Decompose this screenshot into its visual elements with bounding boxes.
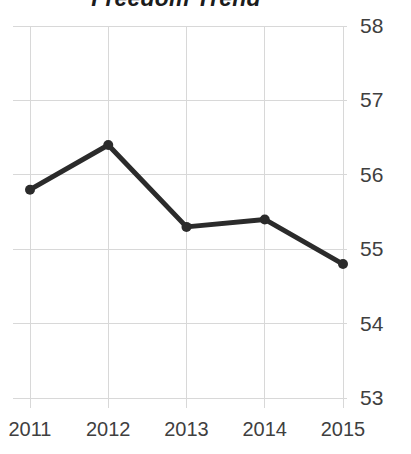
chart-series-freedom-trend — [13, 26, 347, 398]
plot-area — [13, 26, 347, 398]
x-tick-label: 2014 — [220, 418, 310, 440]
y-tick-label: 55 — [360, 238, 404, 259]
y-tick-label: 54 — [360, 313, 404, 334]
y-tick-label: 58 — [360, 15, 404, 36]
y-tick-label: 53 — [360, 387, 404, 408]
x-tick-label: 2013 — [142, 418, 232, 440]
line-chart: Freedom Trend 585756555453 2011201220132… — [0, 0, 411, 454]
x-tick-label: 2012 — [63, 418, 153, 440]
x-tick-label: 2015 — [298, 418, 388, 440]
y-tick-label: 56 — [360, 164, 404, 185]
y-tick-label: 57 — [360, 89, 404, 110]
chart-title: Freedom Trend — [0, 0, 352, 12]
